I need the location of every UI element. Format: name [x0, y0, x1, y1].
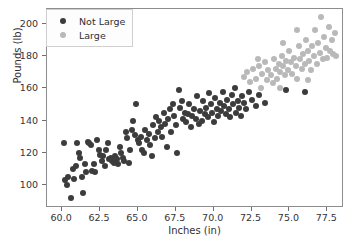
data-point	[91, 161, 97, 167]
data-point	[280, 40, 286, 46]
data-point	[64, 182, 70, 188]
data-point	[188, 124, 194, 130]
data-point	[200, 98, 206, 104]
data-point	[305, 48, 311, 54]
data-point	[306, 58, 312, 64]
data-point	[239, 93, 245, 99]
legend: Not Large Large	[46, 9, 133, 47]
data-point	[262, 100, 268, 106]
data-point	[314, 61, 320, 67]
data-point	[305, 77, 311, 83]
data-point	[270, 80, 276, 86]
x-tick-label: 65.0	[126, 212, 147, 223]
data-point	[232, 85, 238, 91]
data-point	[294, 27, 300, 33]
data-point	[309, 43, 315, 49]
data-point	[256, 92, 262, 98]
data-point	[206, 90, 212, 96]
data-point	[127, 147, 133, 153]
scatter-plot-figure: 60.062.565.067.570.072.575.077.5 1001201…	[0, 0, 355, 244]
data-point	[179, 98, 185, 104]
data-point	[253, 76, 259, 82]
data-point	[194, 93, 200, 99]
x-tick-mark	[326, 207, 327, 211]
data-point	[94, 137, 100, 143]
data-point	[249, 97, 255, 103]
data-point	[294, 76, 300, 82]
data-point	[321, 34, 327, 40]
data-point	[150, 122, 156, 128]
data-point	[146, 131, 152, 137]
data-point	[296, 43, 302, 49]
x-tick-label: 62.5	[88, 212, 109, 223]
data-point	[220, 89, 226, 95]
y-tick-label: 120	[0, 146, 38, 157]
data-point	[74, 140, 80, 146]
data-point	[286, 48, 292, 54]
x-tick-mark	[288, 207, 289, 211]
data-point	[174, 150, 180, 156]
data-point	[262, 59, 268, 65]
x-axis-label: Inches (in)	[46, 225, 343, 236]
data-point	[238, 113, 244, 119]
data-point	[165, 116, 171, 122]
data-point	[211, 119, 217, 125]
data-point	[241, 100, 247, 106]
data-point	[227, 114, 233, 120]
data-point	[235, 98, 241, 104]
data-point	[247, 79, 253, 85]
data-point	[229, 92, 235, 98]
data-point	[82, 161, 88, 167]
data-point	[77, 155, 83, 161]
x-tick-mark	[213, 207, 214, 211]
data-point	[73, 163, 79, 169]
data-point	[243, 106, 249, 112]
y-axis-label: Pounds (lb)	[12, 1, 23, 111]
data-point	[161, 110, 167, 116]
legend-entry-not-large: Not Large	[52, 14, 125, 28]
data-point	[311, 53, 317, 59]
data-point	[79, 174, 85, 180]
data-point	[329, 37, 335, 43]
data-point	[224, 97, 230, 103]
data-point	[199, 118, 205, 124]
data-point	[171, 113, 177, 119]
data-point	[303, 37, 309, 43]
data-point	[277, 85, 283, 91]
data-point	[259, 71, 265, 77]
data-point	[117, 144, 123, 150]
y-tick-mark	[42, 184, 46, 185]
data-point	[61, 140, 67, 146]
data-point	[291, 55, 297, 61]
data-point	[324, 55, 330, 61]
data-point	[226, 106, 232, 112]
x-tick-mark	[99, 207, 100, 211]
x-tick-mark	[251, 207, 252, 211]
data-point	[68, 195, 74, 201]
x-tick-mark	[175, 207, 176, 211]
data-point	[244, 69, 250, 75]
y-tick-mark	[42, 152, 46, 153]
data-point	[115, 161, 121, 167]
data-point	[124, 135, 130, 141]
data-point	[236, 105, 242, 111]
y-tick-mark	[42, 55, 46, 56]
y-tick-mark	[42, 87, 46, 88]
data-point	[333, 53, 339, 59]
legend-label-large: Large	[79, 30, 106, 41]
data-point	[250, 66, 256, 72]
x-tick-mark	[137, 207, 138, 211]
data-point	[141, 150, 147, 156]
data-point	[176, 87, 182, 93]
legend-label-not-large: Not Large	[79, 16, 125, 27]
data-point	[258, 85, 264, 91]
data-point	[308, 67, 314, 73]
data-point	[149, 153, 155, 159]
data-point	[208, 101, 214, 107]
data-point	[168, 129, 174, 135]
data-point	[302, 89, 308, 95]
data-point	[65, 174, 71, 180]
data-point	[315, 40, 321, 46]
y-tick-mark	[42, 120, 46, 121]
y-tick-label: 100	[0, 179, 38, 190]
